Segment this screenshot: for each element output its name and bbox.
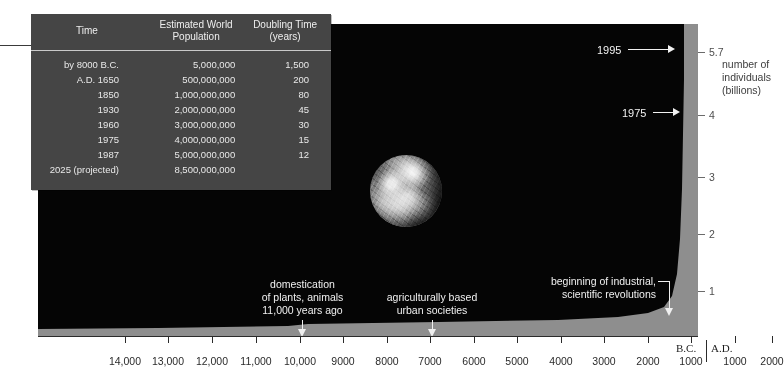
y-axis-strip <box>684 24 698 336</box>
table-header-population: Estimated World Population <box>143 14 249 51</box>
x-tick <box>474 336 475 343</box>
x-tick <box>604 336 605 343</box>
x-tick-label: 14,000 <box>109 355 141 367</box>
year-callout-1995: 1995 <box>597 45 621 56</box>
x-tick-label: 6000 <box>462 355 485 367</box>
x-tick-label: 7000 <box>418 355 441 367</box>
x-tick <box>387 336 388 343</box>
table-cell-doubling: 12 <box>249 148 331 163</box>
y-tick-1: 1 <box>698 286 715 297</box>
annotation-industrial-revolution-arrowhead-icon <box>665 308 673 316</box>
table-cell-doubling: 80 <box>249 88 331 103</box>
earth-texture-overlay <box>370 155 442 227</box>
table-cell-time: by 8000 B.C. <box>31 51 143 73</box>
x-tick-label: 2000 <box>636 355 659 367</box>
x-tick <box>772 336 773 343</box>
year-callout-1975-line <box>653 112 673 113</box>
year-callout-1975-label: 1975 <box>622 107 646 119</box>
year-callout-1995-label: 1995 <box>597 44 621 56</box>
annotation-industrial-revolution-line2: scientific revolutions <box>531 288 656 301</box>
table-cell-doubling: 45 <box>249 103 331 118</box>
table-row: 19603,000,000,00030 <box>31 118 331 133</box>
y-tick-5-7: 5.7 <box>698 47 724 58</box>
x-tick <box>735 336 736 343</box>
x-tick <box>300 336 301 343</box>
table-cell-population: 8,500,000,000 <box>143 163 249 178</box>
x-tick <box>517 336 518 343</box>
x-tick-label: 9000 <box>331 355 354 367</box>
table-cell-population: 1,000,000,000 <box>143 88 249 103</box>
x-tick-label: 5000 <box>505 355 528 367</box>
y-axis-title: number of individuals (billions) <box>722 58 771 97</box>
x-tick <box>212 336 213 343</box>
annotation-industrial-revolution-line1: beginning of industrial, <box>531 275 656 288</box>
table-row: 19754,000,000,00015 <box>31 133 331 148</box>
x-tick <box>430 336 431 343</box>
y-axis-title-line3: (billions) <box>722 84 771 97</box>
x-tick-label: 12,000 <box>196 355 228 367</box>
annotation-domestication: domestication of plants, animals 11,000 … <box>250 278 355 317</box>
population-table: Time Estimated World Population Doubling… <box>31 14 331 190</box>
annotation-urban-societies: agriculturally based urban societies <box>377 291 487 317</box>
annotation-domestication-line3: 11,000 years ago <box>250 304 355 317</box>
y-tick-3: 3 <box>698 172 715 183</box>
table-header-doubling: Doubling Time (years) <box>249 14 331 51</box>
x-tick-label: 2000 <box>760 355 783 367</box>
table-cell-doubling: 30 <box>249 118 331 133</box>
table-row: 19875,000,000,00012 <box>31 148 331 163</box>
year-callout-1975: 1975 <box>622 108 646 119</box>
table-header-doubling-line1: Doubling Time <box>249 19 321 31</box>
table-left-rule <box>0 45 33 46</box>
table-header-population-line1: Estimated World <box>143 19 249 31</box>
table-cell-doubling: 200 <box>249 73 331 88</box>
year-callout-1995-line <box>628 49 668 50</box>
x-tick <box>256 336 257 343</box>
table-cell-time: 1975 <box>31 133 143 148</box>
era-label-ad: A.D. <box>711 342 732 354</box>
x-tick-label: 4000 <box>549 355 572 367</box>
x-tick <box>343 336 344 343</box>
x-tick-label: 10,000 <box>284 355 316 367</box>
annotation-urban-societies-line2: urban societies <box>377 304 487 317</box>
y-axis-title-line1: number of <box>722 58 771 71</box>
year-callout-1975-arrowhead-icon <box>673 108 680 116</box>
x-tick-label: 11,000 <box>240 355 271 367</box>
table-cell-population: 2,000,000,000 <box>143 103 249 118</box>
table-row: 18501,000,000,00080 <box>31 88 331 103</box>
x-tick-label: 1000 <box>723 355 746 367</box>
y-tick-2: 2 <box>698 229 715 240</box>
table-cell-time: 2025 (projected) <box>31 163 143 178</box>
annotation-industrial-revolution: beginning of industrial, scientific revo… <box>531 275 656 301</box>
table-cell-population: 5,000,000 <box>143 51 249 73</box>
x-tick <box>125 336 126 343</box>
y-tick-dash <box>698 52 705 53</box>
y-tick-dash <box>698 115 705 116</box>
annotation-domestication-line1: domestication <box>250 278 355 291</box>
y-axis-title-line2: individuals <box>722 71 771 84</box>
table-header-row: Time Estimated World Population Doubling… <box>31 14 331 51</box>
earth-photo <box>370 155 442 227</box>
y-tick-dash <box>698 234 705 235</box>
table-cell-time: A.D. 1650 <box>31 73 143 88</box>
table-cell-doubling <box>249 163 331 178</box>
y-tick-dash <box>698 177 705 178</box>
table-body: by 8000 B.C.5,000,0001,500A.D. 1650500,0… <box>31 51 331 178</box>
table-cell-doubling: 1,500 <box>249 51 331 73</box>
annotation-urban-societies-line1: agriculturally based <box>377 291 487 304</box>
table-cell-time: 1930 <box>31 103 143 118</box>
table-cell-population: 500,000,000 <box>143 73 249 88</box>
year-callout-1995-arrowhead-icon <box>668 45 675 53</box>
annotation-domestication-line2: of plants, animals <box>250 291 355 304</box>
table-header-time: Time <box>31 14 143 51</box>
table-row: A.D. 1650500,000,000200 <box>31 73 331 88</box>
table-cell-time: 1987 <box>31 148 143 163</box>
y-tick-dash <box>698 291 705 292</box>
era-divider <box>706 340 707 362</box>
era-label-bc: B.C. <box>676 342 696 354</box>
table-cell-population: 5,000,000,000 <box>143 148 249 163</box>
annotation-industrial-revolution-stem <box>669 281 670 310</box>
table-cell-time: 1850 <box>31 88 143 103</box>
table-cell-doubling: 15 <box>249 133 331 148</box>
x-tick-label: 1000 <box>679 355 702 367</box>
table-cell-population: 4,000,000,000 <box>143 133 249 148</box>
